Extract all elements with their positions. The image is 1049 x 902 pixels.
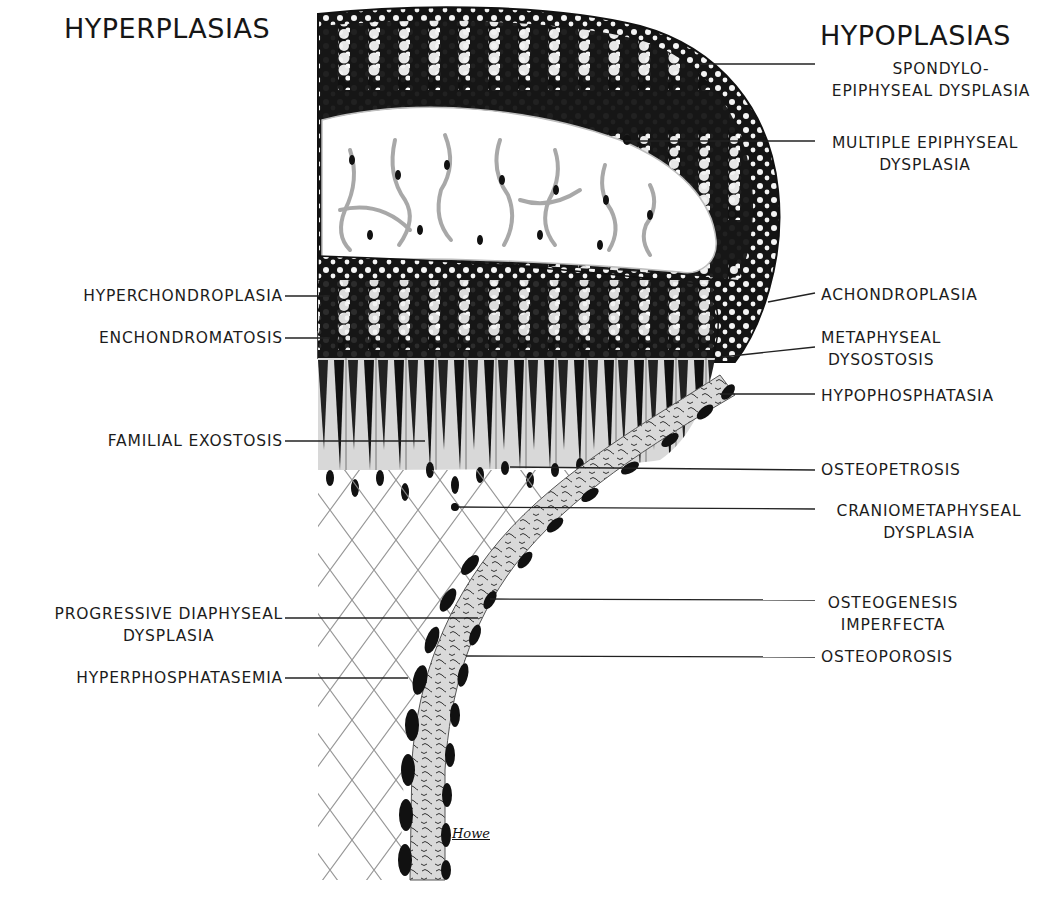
label-line: DYSPLASIA: [819, 522, 1039, 544]
label-osteoporosis: OSTEOPOROSIS: [821, 646, 953, 668]
label-line: DYSOSTOSIS: [818, 349, 958, 371]
label-line: OSTEOGENESIS: [818, 592, 968, 614]
label-familial-exostosis: FAMILIAL EXOSTOSIS: [108, 430, 283, 452]
proliferative-zone: [318, 280, 713, 360]
label-line: METAPHYSEAL: [818, 327, 958, 349]
artist-signature: Howe: [452, 826, 490, 841]
label-hyperphosphatasemia: HYPERPHOSPHATASEMIA: [76, 667, 283, 689]
label-spondylo-epiphyseal-dysplasia: SPONDYLO- EPIPHYSEAL DYSPLASIA: [818, 58, 1044, 102]
label-hyperchondroplasia: HYPERCHONDROPLASIA: [83, 285, 283, 307]
label-osteogenesis-imperfecta: OSTEOGENESIS IMPERFECTA: [818, 592, 968, 636]
label-osteopetrosis: OSTEOPETROSIS: [821, 459, 961, 481]
hypertrophic-zone: [318, 358, 715, 470]
label-hypophosphatasia: HYPOPHOSPHATASIA: [821, 385, 994, 407]
label-line: IMPERFECTA: [818, 614, 968, 636]
label-line: PROGRESSIVE DIAPHYSEAL: [54, 603, 283, 625]
label-metaphyseal-dysostosis: METAPHYSEAL DYSOSTOSIS: [818, 327, 958, 371]
label-line: SPONDYLO-: [818, 58, 1044, 80]
label-multiple-epiphyseal-dysplasia: MULTIPLE EPIPHYSEAL DYSPLASIA: [820, 132, 1030, 176]
label-line: EPIPHYSEAL DYSPLASIA: [818, 80, 1044, 102]
label-line: CRANIOMETAPHYSEAL: [819, 500, 1039, 522]
label-enchondromatosis: ENCHONDROMATOSIS: [99, 327, 283, 349]
label-achondroplasia: ACHONDROPLASIA: [821, 284, 978, 306]
label-progressive-diaphyseal-dysplasia: PROGRESSIVE DIAPHYSEAL DYSPLASIA: [54, 603, 283, 647]
label-line: MULTIPLE EPIPHYSEAL: [820, 132, 1030, 154]
label-line: DYSPLASIA: [820, 154, 1030, 176]
label-craniometaphyseal-dysplasia: CRANIOMETAPHYSEAL DYSPLASIA: [819, 500, 1039, 544]
label-line: DYSPLASIA: [54, 625, 283, 647]
